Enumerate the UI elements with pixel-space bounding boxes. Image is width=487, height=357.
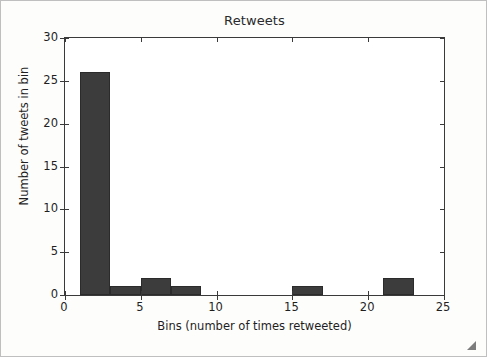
x-tick-mark-inner <box>292 291 293 295</box>
histogram-bar <box>292 286 322 295</box>
x-tick-mark-top <box>65 38 66 42</box>
x-tick-label: 10 <box>196 300 236 314</box>
y-tick-mark-inner <box>65 124 69 125</box>
x-tick-label: 5 <box>120 300 160 314</box>
x-tick-mark-top <box>444 38 445 42</box>
bars-layer <box>65 38 444 295</box>
x-tick-label: 25 <box>423 300 463 314</box>
y-tick-mark-right <box>440 124 444 125</box>
chart-figure: Retweets 051015202530 0510152025 Number … <box>0 0 487 357</box>
x-tick-mark-top <box>292 38 293 42</box>
y-tick-mark-inner <box>65 167 69 168</box>
histogram-bar <box>80 72 110 295</box>
x-tick-label: 15 <box>271 300 311 314</box>
resize-handle-icon[interactable] <box>466 336 477 347</box>
x-axis-tick-labels: 0510152025 <box>64 300 445 318</box>
histogram-bar <box>171 286 201 295</box>
histogram-bar <box>383 278 413 295</box>
y-tick-mark-right <box>440 252 444 253</box>
y-tick-label: 0 <box>18 287 58 301</box>
x-tick-label: 0 <box>44 300 84 314</box>
chart-title: Retweets <box>64 13 445 28</box>
x-tick-label: 20 <box>347 300 387 314</box>
x-tick-mark-inner <box>65 291 66 295</box>
x-tick-mark-top <box>141 38 142 42</box>
y-tick-label: 5 <box>18 244 58 258</box>
y-tick-mark-inner <box>65 209 69 210</box>
y-axis-label: Number of tweets in bin <box>17 36 31 236</box>
x-tick-mark-top <box>217 38 218 42</box>
y-tick-mark-right <box>440 167 444 168</box>
x-tick-mark-top <box>368 38 369 42</box>
histogram-bar <box>141 278 171 295</box>
x-tick-mark-inner <box>444 291 445 295</box>
plot-area <box>64 37 445 296</box>
x-tick-mark-inner <box>141 291 142 295</box>
x-tick-mark-inner <box>368 291 369 295</box>
histogram-bar <box>110 286 140 295</box>
y-tick-mark-inner <box>65 252 69 253</box>
x-tick-mark-inner <box>217 291 218 295</box>
y-tick-mark-right <box>440 81 444 82</box>
y-tick-mark-right <box>440 209 444 210</box>
x-axis-label: Bins (number of times retweeted) <box>64 319 445 333</box>
y-tick-mark-inner <box>65 81 69 82</box>
